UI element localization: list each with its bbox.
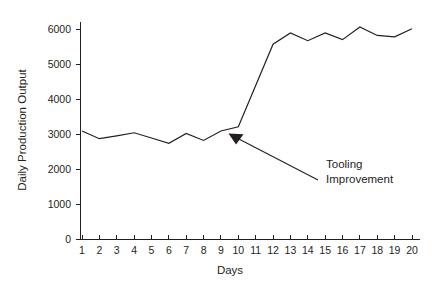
y-tick-label: 2000	[48, 163, 72, 175]
y-tick-label: 5000	[48, 58, 72, 70]
y-tick-label: 0	[65, 233, 71, 245]
y-tick-label: 6000	[48, 23, 72, 35]
chart-svg: 0100020003000400050006000 12345678910111…	[0, 0, 432, 291]
y-axis-title: Daily Production Output	[16, 68, 28, 190]
x-tick-label: 18	[371, 244, 383, 256]
chart-background	[0, 0, 432, 291]
x-tick-label: 14	[302, 244, 314, 256]
x-tick-label: 9	[218, 244, 224, 256]
x-tick-label: 8	[201, 244, 207, 256]
x-axis-title: Days	[217, 264, 243, 276]
x-tick-label: 7	[183, 244, 189, 256]
x-tick-label: 4	[131, 244, 137, 256]
x-tick-label: 12	[267, 244, 279, 256]
x-tick-label: 3	[114, 244, 120, 256]
x-tick-label: 11	[250, 244, 261, 256]
x-tick-label: 19	[389, 244, 401, 256]
annotation-label-line1: Tooling	[326, 158, 362, 170]
x-tick-label: 2	[96, 244, 102, 256]
x-tick-label: 10	[232, 244, 244, 256]
x-tick-label: 5	[149, 244, 155, 256]
x-tick-label: 6	[166, 244, 172, 256]
x-tick-label: 1	[79, 244, 85, 256]
x-tick-label: 15	[319, 244, 331, 256]
annotation-label-line2: Improvement	[326, 173, 394, 185]
y-tick-label: 3000	[48, 128, 72, 140]
line-chart: 0100020003000400050006000 12345678910111…	[0, 0, 432, 291]
y-tick-label: 4000	[48, 93, 72, 105]
x-tick-label: 17	[354, 244, 366, 256]
y-tick-label: 1000	[48, 198, 72, 210]
x-tick-label: 20	[406, 244, 418, 256]
x-tick-label: 13	[285, 244, 297, 256]
x-tick-label: 16	[337, 244, 349, 256]
